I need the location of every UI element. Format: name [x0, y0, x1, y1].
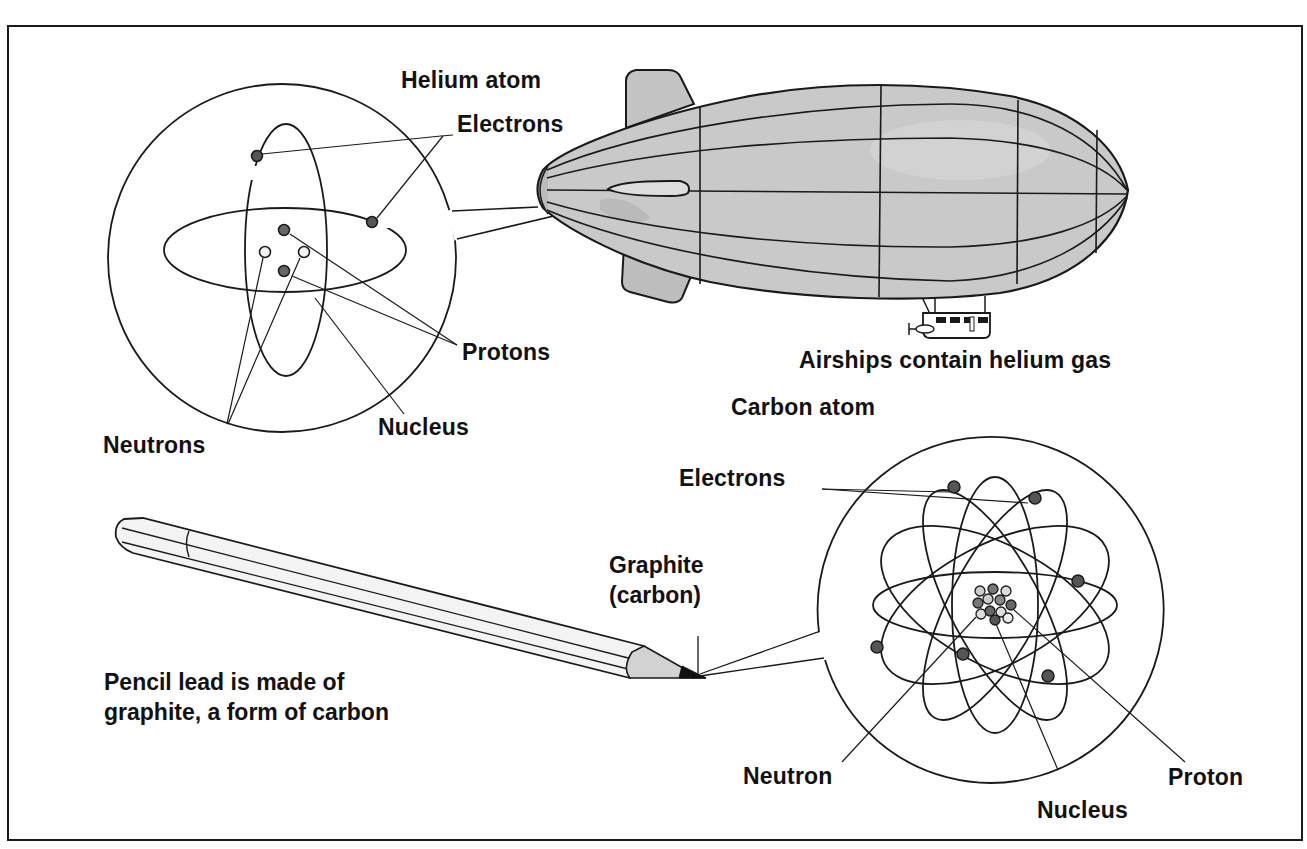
helium-neutron-icon	[299, 247, 310, 258]
pencil-caption: Pencil lead is made of graphite, a form …	[104, 667, 389, 727]
helium-proton-icon	[279, 266, 290, 277]
carbon-electrons-label: Electrons	[679, 465, 786, 491]
carbon-electron-icon	[1042, 670, 1054, 682]
pencil-caption-line2: graphite, a form of carbon	[104, 697, 389, 727]
airship-gondola	[909, 296, 990, 338]
graphite-label-line1: Graphite	[609, 550, 704, 580]
pencil-body	[116, 518, 644, 678]
helium-neutrons-label: Neutrons	[103, 432, 206, 458]
carbon-electron-icon	[1072, 575, 1084, 587]
carbon-neutron-label: Neutron	[743, 763, 833, 789]
helium-protons-label: Protons	[462, 339, 550, 365]
helium-nucleus-label: Nucleus	[378, 414, 469, 440]
graphite-leader-lines	[698, 632, 824, 676]
graphite-label: Graphite (carbon)	[609, 550, 704, 610]
carbon-atom-title: Carbon atom	[731, 394, 875, 420]
helium-neutron-icon	[260, 247, 271, 258]
helium-electron-icon	[367, 217, 378, 228]
helium-electrons-label: Electrons	[457, 111, 564, 137]
airship-illustration	[538, 70, 1129, 338]
helium-proton-icon	[279, 225, 290, 236]
carbon-atom-diagram	[818, 437, 1185, 783]
graphite-label-line2: (carbon)	[609, 580, 704, 610]
carbon-electron-icon	[957, 648, 969, 660]
carbon-electron-icon	[948, 481, 960, 493]
helium-electron-icon	[252, 151, 263, 162]
science-diagram: Helium atom Electrons Protons Nucleus Ne…	[0, 0, 1307, 849]
carbon-electron-icon	[871, 641, 883, 653]
helium-atom-title: Helium atom	[401, 67, 541, 93]
helium-callout-wedge-top	[452, 207, 538, 211]
airship-caption: Airships contain helium gas	[799, 347, 1111, 373]
carbon-proton-label: Proton	[1168, 764, 1243, 790]
pencil-caption-line1: Pencil lead is made of	[104, 667, 389, 697]
carbon-nucleus-label: Nucleus	[1037, 797, 1128, 823]
carbon-electron-icon	[1029, 492, 1041, 504]
